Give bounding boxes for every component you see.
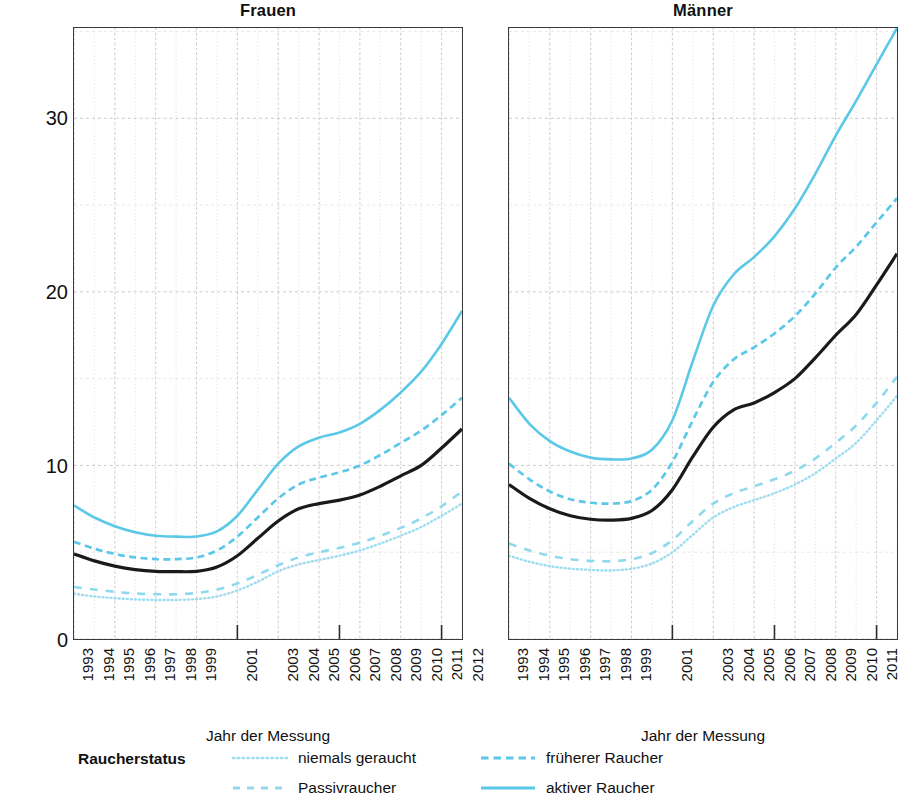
series-line: [74, 504, 462, 600]
x-tick-label: 1998: [182, 648, 199, 681]
x-tick-label: 2006: [781, 648, 798, 681]
legend-swatch-niemals-geraucht: [232, 751, 288, 765]
legend-swatch-passivraucher: [232, 781, 288, 795]
x-tick-label: 1993: [514, 648, 531, 681]
x-axis-ticks-frauen: 1993199419951996199719981999200120032004…: [73, 644, 463, 724]
x-tick-label: 1998: [617, 648, 634, 681]
x-tick-label: 2006: [346, 648, 363, 681]
legend-item-aktiver-raucher[interactable]: aktiver Raucher: [480, 774, 655, 802]
x-tick-label: 1994: [535, 648, 552, 681]
legend-label-passivraucher: Passivraucher: [298, 779, 396, 797]
x-tick-label: 2004: [305, 648, 322, 681]
x-tick-label: 1995: [555, 648, 572, 681]
legend-swatch-aktiver-raucher: [480, 781, 536, 795]
x-tick-label: 2009: [842, 648, 859, 681]
x-tick-label: 2007: [801, 648, 818, 681]
x-tick-label: 2005: [760, 648, 777, 681]
x-tick-label: 1997: [596, 648, 613, 681]
series-line: [509, 198, 897, 504]
x-tick-label: 2003: [719, 648, 736, 681]
legend-label-aktiver-raucher: aktiver Raucher: [546, 779, 655, 797]
legend-item-niemals-geraucht[interactable]: niemals geraucht: [232, 744, 416, 772]
y-tick-label: 10: [24, 454, 68, 477]
x-tick-label: 2010: [428, 648, 445, 681]
series-line: [74, 429, 462, 572]
series-line: [509, 377, 897, 561]
y-tick-label: 20: [24, 280, 68, 303]
x-tick-label: 2009: [407, 648, 424, 681]
x-tick-label: 2003: [284, 648, 301, 681]
panel-title-frauen: Frauen: [73, 1, 463, 20]
x-tick-label: 1999: [202, 648, 219, 681]
x-tick-label: 1999: [637, 648, 654, 681]
series-line: [509, 28, 897, 460]
legend-swatch-frueherer-raucher: [480, 751, 536, 765]
x-tick-label: 2011: [883, 648, 900, 680]
plot-lines-maenner: [509, 28, 897, 639]
series-line: [509, 396, 897, 571]
x-tick-label: 1997: [161, 648, 178, 681]
x-axis-ticks-maenner: 1993199419951996199719981999200120032004…: [508, 644, 898, 724]
y-axis-ticks: 0102030: [12, 0, 68, 802]
x-tick-label: 1996: [576, 648, 593, 681]
y-tick-label: 0: [24, 629, 68, 652]
legend-label-niemals-geraucht: niemals geraucht: [298, 749, 416, 767]
x-tick-label: 2001: [678, 648, 695, 681]
series-line: [509, 254, 897, 520]
x-tick-label: 2008: [822, 648, 839, 681]
legend: Raucherstatus niemals geraucht Passivrau…: [0, 742, 902, 802]
x-tick-label: 1995: [120, 648, 137, 681]
x-tick-label: 1994: [100, 648, 117, 681]
legend-item-passivraucher[interactable]: Passivraucher: [232, 774, 396, 802]
x-tick-label: 2005: [325, 648, 342, 681]
panel-frauen: Frauen 199319941995199619971998199920012…: [73, 27, 463, 640]
series-line: [74, 491, 462, 594]
series-line: [74, 398, 462, 560]
x-tick-label: 2012: [469, 648, 486, 681]
panel-maenner: Männer 199319941995199619971998199920012…: [508, 27, 898, 640]
legend-item-frueherer-raucher[interactable]: früherer Raucher: [480, 744, 663, 772]
x-tick-label: 2011: [448, 648, 465, 680]
plot-area-maenner: [508, 27, 898, 640]
legend-title: Raucherstatus: [78, 750, 186, 768]
chart-figure: Prävalenz von Atemwegsobstruktionen 0102…: [0, 0, 902, 802]
x-tick-label: 2008: [387, 648, 404, 681]
series-line: [74, 311, 462, 537]
legend-label-frueherer-raucher: früherer Raucher: [546, 749, 663, 767]
plot-lines-frauen: [74, 28, 462, 639]
x-tick-label: 2010: [863, 648, 880, 681]
y-tick-label: 30: [24, 106, 68, 129]
plot-area-frauen: [73, 27, 463, 640]
x-tick-label: 2007: [366, 648, 383, 681]
x-tick-label: 2001: [243, 648, 260, 681]
x-tick-label: 1996: [141, 648, 158, 681]
x-tick-label: 1993: [79, 648, 96, 681]
panel-title-maenner: Männer: [508, 1, 898, 20]
x-tick-label: 2004: [740, 648, 757, 681]
